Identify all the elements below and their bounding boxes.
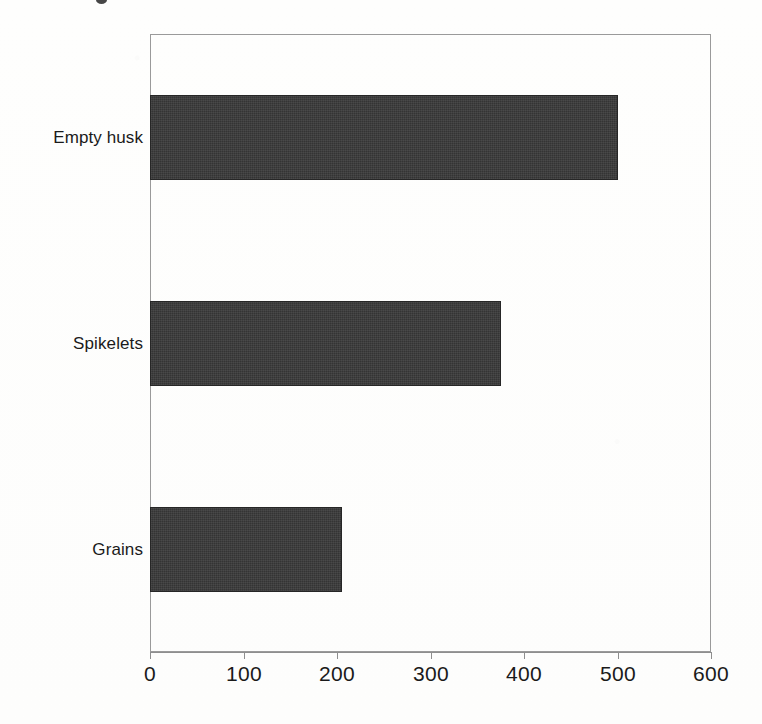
x-tick-mark [618, 652, 619, 659]
bar-grains [150, 507, 342, 592]
bar-chart: Empty husk Spikelets Grains 0 100 200 30… [0, 0, 762, 724]
category-label-empty-husk: Empty husk [0, 129, 143, 146]
page-background: Empty husk Spikelets Grains 0 100 200 30… [0, 0, 762, 724]
bar-spikelets [150, 301, 501, 386]
x-tick-label-300: 300 [386, 663, 476, 684]
bar-empty-husk [150, 95, 618, 180]
category-label-grains: Grains [0, 541, 143, 558]
x-tick-label-100: 100 [199, 663, 289, 684]
x-tick-mark [244, 652, 245, 659]
x-tick-label-400: 400 [479, 663, 569, 684]
category-label-spikelets: Spikelets [0, 335, 143, 352]
x-tick-mark [431, 652, 432, 659]
x-tick-mark [150, 652, 151, 659]
x-tick-label-0: 0 [105, 663, 195, 684]
x-tick-label-200: 200 [292, 663, 382, 684]
x-tick-mark [711, 652, 712, 659]
x-tick-mark [337, 652, 338, 659]
x-tick-label-600: 600 [666, 663, 756, 684]
x-tick-mark [524, 652, 525, 659]
x-tick-label-500: 500 [573, 663, 663, 684]
